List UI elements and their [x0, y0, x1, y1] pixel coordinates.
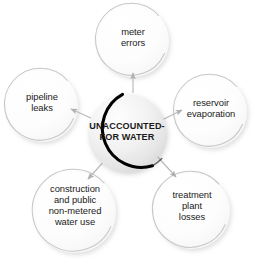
diagram-graphics	[0, 0, 255, 262]
satellite-node-pipeline-leaks[interactable]	[4, 68, 78, 142]
satellite-node-reservoir-evaporation[interactable]	[173, 74, 247, 148]
satellite-node-treatment-plant-losses[interactable]	[152, 171, 230, 249]
hub-node-unaccounted-for-water[interactable]	[88, 94, 166, 172]
satellite-node-meter-errors[interactable]	[95, 3, 169, 77]
arrow-to-treatment-plant-losses-icon	[156, 155, 176, 177]
satellite-node-construction-water-use[interactable]	[32, 169, 116, 253]
diagram-canvas: meter errors reservoir evaporation treat…	[0, 0, 255, 262]
